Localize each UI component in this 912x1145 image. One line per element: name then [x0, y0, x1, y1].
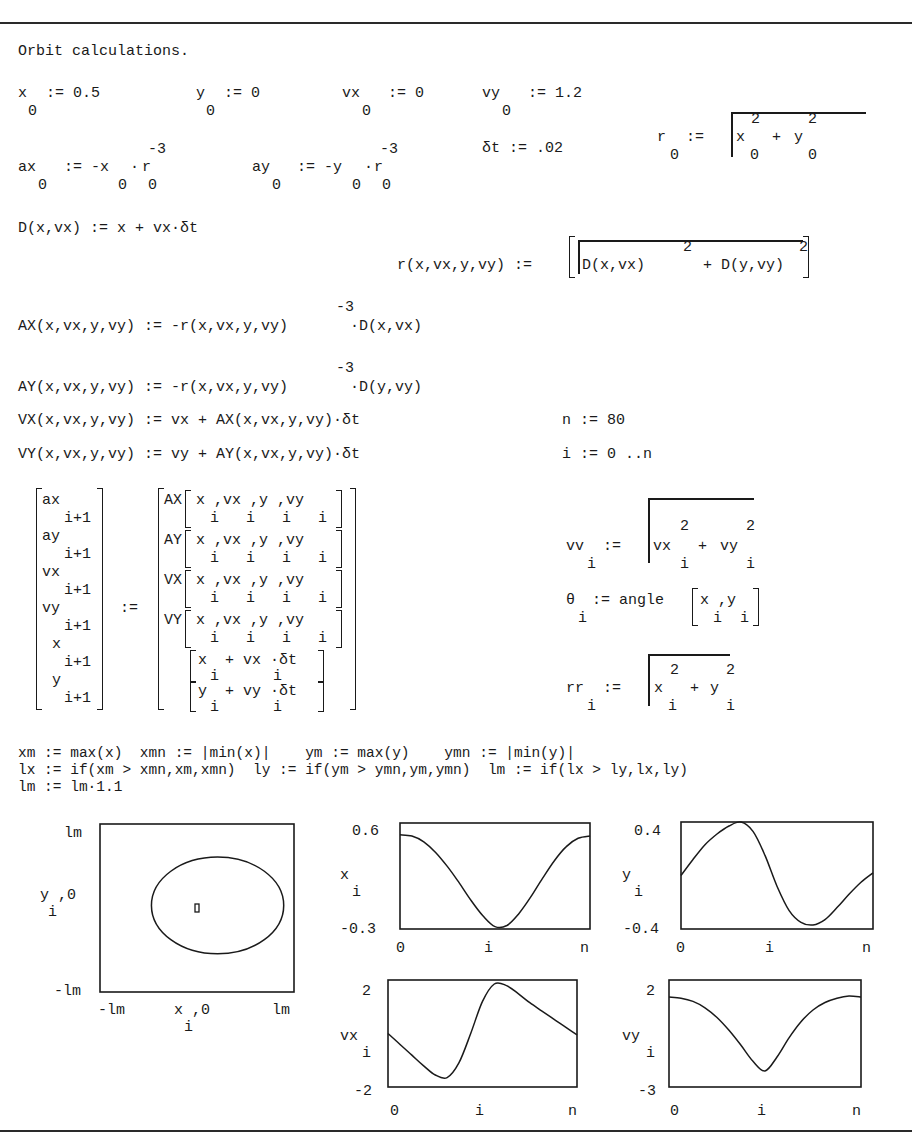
xtick: 0	[390, 1103, 399, 1121]
xtick-right: lm	[272, 1002, 290, 1020]
xtick: i	[765, 940, 774, 958]
ylabel-sub: i	[362, 1045, 371, 1063]
ytick-bottom: -0.3	[340, 921, 376, 939]
xtick: n	[862, 940, 871, 958]
ylabel-sub: i	[48, 904, 57, 922]
xtick: i	[757, 1103, 766, 1121]
ylabel-sub: i	[634, 884, 643, 902]
xlabel-sub: i	[184, 1019, 193, 1037]
ytick-top: 2	[362, 983, 371, 1001]
ytick-top: 0.4	[634, 823, 661, 841]
ylabel: y	[622, 867, 631, 885]
xtick: n	[580, 940, 589, 958]
ytick-top: 2	[646, 983, 655, 1001]
ytick-bottom: -2	[354, 1083, 372, 1101]
xlabel: x ,0	[174, 1002, 210, 1020]
xtick: 0	[396, 940, 405, 958]
ytick-top: lm	[64, 825, 82, 843]
ytick-bottom: -3	[638, 1083, 656, 1101]
xtick: n	[568, 1103, 577, 1121]
ylabel: y ,0	[40, 887, 76, 905]
ylabel: vx	[340, 1028, 358, 1046]
ytick-top: 0.6	[352, 823, 379, 841]
ylabel-sub: i	[352, 884, 361, 902]
ylabel-sub: i	[646, 1045, 655, 1063]
xtick: i	[475, 1103, 484, 1121]
xtick: 0	[670, 1103, 679, 1121]
xtick: i	[484, 940, 493, 958]
orbit-plot-canvas	[0, 0, 912, 1145]
xtick: n	[852, 1103, 861, 1121]
ylabel: vy	[622, 1028, 640, 1046]
xtick-left: -lm	[98, 1002, 125, 1020]
ytick-bottom: -lm	[54, 983, 81, 1001]
bottom-rule	[0, 1130, 912, 1132]
ylabel: x	[340, 867, 349, 885]
xtick: 0	[676, 940, 685, 958]
ytick-bottom: -0.4	[623, 921, 659, 939]
